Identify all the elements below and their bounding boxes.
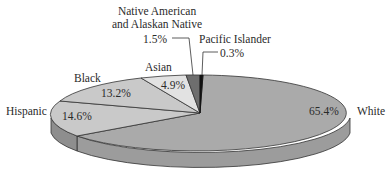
label-asian: Asian [145, 61, 172, 74]
label-native-american: Native American and Alaskan Native [112, 5, 202, 31]
pct-black: 13.2% [101, 87, 131, 100]
pct-asian: 4.9% [161, 79, 185, 92]
leader-line-native [172, 38, 193, 75]
label-pacific-islander: Pacific Islander [199, 33, 271, 46]
label-black: Black [74, 72, 101, 85]
pct-native: 1.5% [143, 33, 167, 46]
pct-hispanic: 14.6% [62, 110, 92, 123]
label-white: White [357, 105, 385, 118]
label-native-line1: Native American [112, 5, 202, 18]
label-hispanic: Hispanic [6, 105, 47, 118]
pct-pacific: 0.3% [220, 47, 244, 60]
label-native-line2: and Alaskan Native [112, 18, 202, 31]
pie-chart: Native American and Alaskan Native 1.5% … [0, 0, 391, 175]
pct-white: 65.4% [309, 105, 339, 118]
leader-line-pacific [202, 52, 218, 75]
